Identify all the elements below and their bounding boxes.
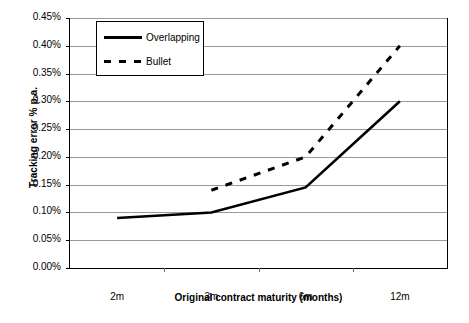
plot-area: 2m3m6m12m Overlapping Bullet bbox=[70, 18, 447, 268]
legend-item-bullet: Bullet bbox=[97, 50, 205, 72]
legend-label-overlapping: Overlapping bbox=[146, 32, 200, 43]
chart-figure: Tracking error % p.a. Original contract … bbox=[0, 0, 469, 323]
solid-line-swatch bbox=[102, 31, 144, 43]
x-tick-label-12m: 12m bbox=[353, 291, 447, 302]
series-line-bullet bbox=[211, 46, 400, 190]
legend-label-bullet: Bullet bbox=[146, 56, 171, 67]
dashed-line-swatch bbox=[102, 55, 144, 67]
y-tick-label: 0.00% bbox=[0, 261, 61, 272]
plot-right-border bbox=[447, 18, 448, 269]
chart-legend: Overlapping Bullet bbox=[96, 21, 204, 76]
y-tick-label: 0.40% bbox=[0, 39, 61, 50]
y-tick-label: 0.25% bbox=[0, 122, 61, 133]
series-line-overlapping bbox=[117, 101, 400, 218]
y-tick-label: 0.30% bbox=[0, 94, 61, 105]
y-tick-label: 0.10% bbox=[0, 205, 61, 216]
x-tick-label-6m: 6m bbox=[259, 291, 353, 302]
y-tick-label: 0.15% bbox=[0, 178, 61, 189]
y-tick-label: 0.35% bbox=[0, 67, 61, 78]
y-tick-label: 0.05% bbox=[0, 233, 61, 244]
legend-item-overlapping: Overlapping bbox=[97, 26, 205, 48]
x-tick-label-3m: 3m bbox=[164, 291, 258, 302]
x-tick-label-2m: 2m bbox=[70, 291, 164, 302]
y-tick-label: 0.45% bbox=[0, 11, 61, 22]
y-tick-label: 0.20% bbox=[0, 150, 61, 161]
